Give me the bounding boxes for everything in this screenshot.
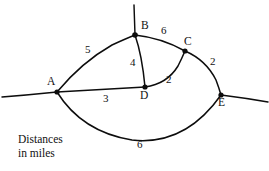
diagram-caption: Distances in miles — [18, 133, 63, 160]
edge-weight-b-d: 4 — [130, 57, 136, 68]
node-label-e: E — [218, 97, 225, 109]
node-dot-c — [182, 48, 187, 53]
stub-line-b-up — [134, 5, 135, 35]
caption-line-2: in miles — [18, 147, 63, 161]
stub-line-e-right — [221, 95, 268, 102]
edge-b-d — [135, 35, 145, 87]
edge-weight-a-b: 5 — [85, 44, 91, 55]
edge-a-d — [57, 87, 145, 92]
caption-line-1: Distances — [18, 133, 63, 147]
edge-weight-c-e: 2 — [210, 56, 216, 67]
edge-c-e — [185, 51, 221, 95]
node-dot-b — [132, 32, 138, 38]
edge-a-b — [57, 35, 135, 92]
edge-a-e — [57, 92, 221, 141]
edge-d-c — [145, 51, 185, 87]
stub-line-a-left — [2, 92, 57, 97]
node-label-d: D — [140, 90, 148, 102]
edge-weight-a-d: 3 — [103, 93, 109, 104]
node-label-a: A — [47, 76, 55, 88]
edge-weight-a-e: 6 — [137, 139, 143, 150]
graph-diagram: A B C D E 5 6 4 3 2 2 6 Distances in mil… — [0, 0, 269, 171]
edge-weight-d-c: 2 — [166, 74, 172, 85]
node-label-b: B — [141, 20, 149, 32]
edge-b-c — [135, 35, 185, 51]
node-dot-a — [54, 89, 59, 94]
node-label-c: C — [184, 36, 192, 48]
edge-weight-b-c: 6 — [161, 25, 167, 36]
